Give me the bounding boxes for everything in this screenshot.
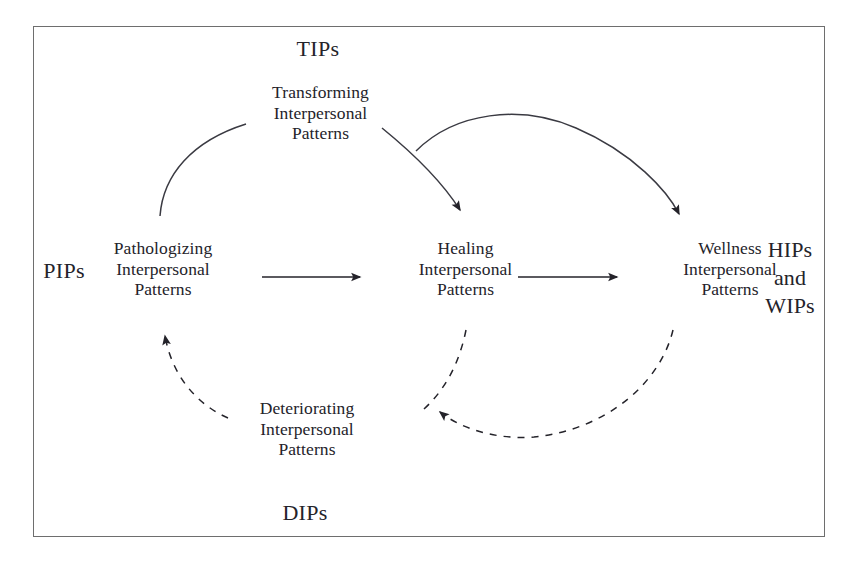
node-label-transforming-interpersonal-patterns: Transforming Interpersonal Patterns — [238, 82, 403, 144]
diagram-page: TIPs Transforming Interpersonal Patterns… — [0, 0, 855, 568]
acronym-label-dips: DIPs — [225, 500, 385, 526]
acronym-label-tips: TIPs — [238, 36, 398, 62]
node-label-healing-interpersonal-patterns: Healing Interpersonal Patterns — [368, 238, 563, 300]
acronym-label-hips-and-wips: HIPs and WIPs — [745, 236, 835, 320]
node-label-pathologizing-interpersonal-patterns: Pathologizing Interpersonal Patterns — [63, 238, 263, 300]
node-label-deteriorating-interpersonal-patterns: Deteriorating Interpersonal Patterns — [222, 398, 392, 460]
